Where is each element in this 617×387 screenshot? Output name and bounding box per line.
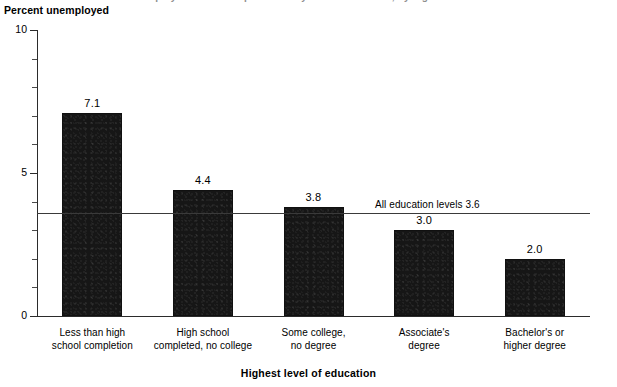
bar (62, 113, 122, 316)
y-axis-major-tick (30, 173, 37, 174)
y-axis-tick-label: 0 (0, 309, 27, 321)
y-axis-line (37, 30, 38, 317)
reference-line (37, 213, 590, 214)
y-axis-minor-tick (32, 287, 37, 288)
y-axis-minor-tick (32, 144, 37, 145)
y-axis-minor-tick (32, 116, 37, 117)
y-axis-minor-tick (32, 87, 37, 88)
category-label-line: higher degree (478, 340, 592, 353)
x-axis-category-label: High schoolcompleted, no college (146, 327, 260, 352)
x-axis-category-label: Associate'sdegree (367, 327, 481, 352)
category-label-line: Associate's (367, 327, 481, 340)
y-axis-minor-tick (32, 202, 37, 203)
x-axis-line (37, 316, 590, 317)
y-axis-minor-tick (32, 259, 37, 260)
category-label-line: completed, no college (146, 340, 260, 353)
reference-line-label: All education levels 3.6 (375, 199, 480, 210)
bar (173, 190, 233, 316)
bar-value-label: 3.8 (284, 191, 344, 203)
category-label-line: Some college, (257, 327, 371, 340)
bar-value-label: 4.4 (173, 174, 233, 186)
bar-value-label: 7.1 (62, 97, 122, 109)
bar (394, 230, 454, 316)
y-axis-minor-tick (32, 230, 37, 231)
category-label-line: High school (146, 327, 260, 340)
category-label-line: no degree (257, 340, 371, 353)
x-axis-category-label: Bachelor's orhigher degree (478, 327, 592, 352)
x-axis-category-label: Less than highschool completion (35, 327, 149, 352)
clipped-title-text: unemployment rates of persons 25 years o… (0, 0, 617, 2)
y-axis-tick-label: 10 (0, 23, 27, 35)
plot-area: 0510 7.14.43.83.02.0 All education level… (37, 30, 590, 316)
bar (505, 259, 565, 316)
y-axis-tick-label: 5 (0, 166, 27, 178)
x-axis-title: Highest level of education (0, 367, 617, 379)
y-axis-major-tick (30, 316, 37, 317)
bar (284, 207, 344, 316)
category-label-line: degree (367, 340, 481, 353)
y-axis-title: Percent unemployed (4, 4, 109, 16)
bar-value-label: 3.0 (394, 214, 454, 226)
y-axis-major-tick (30, 30, 37, 31)
x-axis-category-label: Some college,no degree (257, 327, 371, 352)
category-label-line: school completion (35, 340, 149, 353)
chart-figure: unemployment rates of persons 25 years o… (0, 0, 617, 387)
y-axis-minor-tick (32, 59, 37, 60)
bar-value-label: 2.0 (505, 243, 565, 255)
clipped-title-remnant: unemployment rates of persons 25 years o… (0, 0, 617, 2)
category-label-line: Less than high (35, 327, 149, 340)
category-label-line: Bachelor's or (478, 327, 592, 340)
